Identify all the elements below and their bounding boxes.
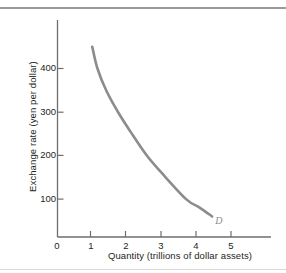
y-axis-title: Exchange rate (yen per dollar) xyxy=(27,32,38,222)
x-axis-ticks xyxy=(91,231,232,237)
demand-curve-d xyxy=(92,47,212,217)
exchange-rate-demand-chart: 400 300 200 100 0 1 2 3 4 5 Exchange rat… xyxy=(0,0,286,273)
x-axis-title: Quantity (trillions of dollar assets) xyxy=(80,250,280,261)
bottom-divider-rule xyxy=(0,269,286,270)
curve-annotation-d: D xyxy=(215,215,222,226)
y-axis-ticks xyxy=(58,69,64,200)
x-tick-label-0: 0 xyxy=(47,240,67,251)
chart-plot-area xyxy=(0,0,286,273)
